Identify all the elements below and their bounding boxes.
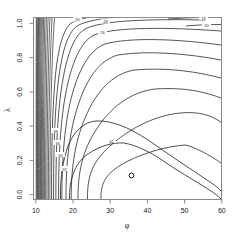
x-tick-label-30: 30 [106,207,114,214]
y-tick-label-04: 0.4 [16,121,23,131]
x-tick-label-40: 40 [144,207,152,214]
svg-text:36: 36 [55,141,60,146]
svg-text:28: 28 [103,19,108,24]
plot-canvas: 10 20 30 40 50 60 φ 0.0 0.2 0.4 0.6 0.8 … [0,0,237,238]
contour-label-32-left: 32 [60,166,69,172]
svg-text:20: 20 [204,23,209,28]
y-tick-label-10: 1.0 [16,18,23,28]
contour-label-36-left: 36 [53,140,62,146]
y-tick-label-06: 0.6 [16,87,23,97]
contour-plot-figure: 10 20 30 40 50 60 φ 0.0 0.2 0.4 0.6 0.8 … [0,0,237,238]
svg-text:34: 34 [58,153,63,158]
svg-text:18: 18 [201,16,206,21]
svg-text:32: 32 [62,167,67,172]
y-tick-label-02: 0.2 [16,155,23,165]
y-tick-label-08: 0.8 [16,53,23,63]
contour-label-20-right: 20 [202,22,211,28]
y-tick-label-00: 0.0 [16,190,23,200]
svg-text:42: 42 [109,139,114,144]
contour-label-18-right: 18 [199,15,208,21]
contour-label-26-top: 26 [98,30,107,36]
x-tick-label-10: 10 [32,207,40,214]
contour-label-28-top: 28 [101,19,110,25]
x-tick-label-50: 50 [181,207,189,214]
svg-text:30: 30 [75,17,80,22]
contour-label-30-top: 30 [73,17,82,23]
svg-text:26: 26 [100,30,105,35]
x-tick-label-20: 20 [69,207,77,214]
contour-label-34-left: 34 [56,152,65,158]
x-tick-label-60: 60 [218,207,226,214]
svg-text:38: 38 [53,129,58,134]
contour-label-42-center: 42 [107,138,116,144]
y-axis-title: λ [3,108,12,112]
x-axis-title: φ [125,221,130,230]
contour-label-38-left: 38 [51,128,60,134]
